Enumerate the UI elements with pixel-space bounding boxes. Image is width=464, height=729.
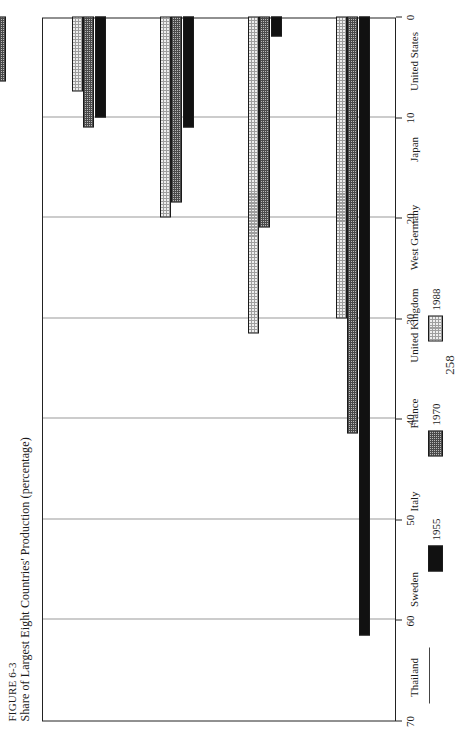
axis-tick-40 xyxy=(396,418,402,419)
chart-plot-area xyxy=(42,17,396,721)
bar-west-germany-1955 xyxy=(183,16,194,127)
legend-swatch-1988 xyxy=(428,315,443,341)
legend-swatch-1970 xyxy=(428,430,443,456)
bar-japan-1988 xyxy=(248,16,259,333)
bar-west-germany-1988 xyxy=(160,16,171,217)
axis-tick-10 xyxy=(396,117,402,118)
gridline-40 xyxy=(43,417,395,418)
category-label-west-germany: West Germany xyxy=(408,204,420,269)
legend-item-1988: 1988 xyxy=(428,288,443,341)
category-label-japan: Japan xyxy=(408,136,420,161)
bar-west-germany-1970 xyxy=(171,16,182,202)
category-label-italy: Italy xyxy=(408,491,420,511)
legend-label-1988: 1988 xyxy=(430,288,442,310)
axis-tick-30 xyxy=(396,318,402,319)
bar-france-1970 xyxy=(0,16,6,81)
bar-united-kingdom-1988 xyxy=(72,16,83,91)
axis-tick-70 xyxy=(396,720,402,721)
bar-united-kingdom-1970 xyxy=(83,16,94,127)
page-number: 258 xyxy=(442,0,458,729)
figure-container: FIGURE 6-3 Share of Largest Eight Countr… xyxy=(0,0,464,729)
figure-number: FIGURE 6-3 xyxy=(6,437,19,721)
axis-tick-20 xyxy=(396,217,402,218)
category-label-thailand: Thailand xyxy=(408,657,420,696)
legend-item-1970: 1970 xyxy=(428,403,443,456)
bar-united-states-1988 xyxy=(336,16,347,318)
category-label-france: France xyxy=(408,398,420,428)
legend-label-1970: 1970 xyxy=(430,403,442,425)
legend-item-1955: 1955 xyxy=(428,518,443,571)
category-label-united-kingdom: United Kingdom xyxy=(408,288,420,362)
gridline-70 xyxy=(43,719,395,720)
footer-rule xyxy=(429,647,430,703)
axis-tick-60 xyxy=(396,619,402,620)
legend-swatch-1955 xyxy=(428,545,443,571)
gridline-50 xyxy=(43,518,395,519)
axis-tick-0 xyxy=(396,16,402,17)
axis-tick-50 xyxy=(396,519,402,520)
bar-japan-1970 xyxy=(259,16,270,227)
category-label-united-states: United States xyxy=(408,32,420,91)
figure-title: Share of Largest Eight Countries' Produc… xyxy=(19,437,33,721)
bar-united-states-1970 xyxy=(347,16,358,433)
gridline-60 xyxy=(43,618,395,619)
category-axis: United StatesJapanWest GermanyUnited Kin… xyxy=(408,17,426,721)
bar-united-kingdom-1955 xyxy=(95,16,106,117)
legend-label-1955: 1955 xyxy=(430,518,442,540)
figure-caption: FIGURE 6-3 Share of Largest Eight Countr… xyxy=(6,437,32,721)
category-label-sweden: Sweden xyxy=(408,572,420,607)
bar-united-states-1955 xyxy=(359,16,370,635)
bar-japan-1955 xyxy=(271,16,282,36)
book-page: FIGURE 6-3 Share of Largest Eight Countr… xyxy=(0,0,464,729)
